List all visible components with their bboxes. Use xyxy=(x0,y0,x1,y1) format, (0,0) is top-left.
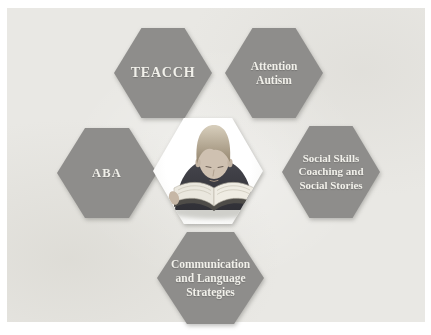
hexagon-communication-language-label-line1: Communication xyxy=(171,257,250,271)
hexagon-social-skills-label-line1: Social Skills xyxy=(303,152,360,166)
hexagon-social-skills: Social Skills Coaching and Social Storie… xyxy=(282,126,380,218)
hexagon-attention-autism: Attention Autism xyxy=(225,28,323,118)
hexagon-communication-language: Communication and Language Strategies xyxy=(157,232,264,324)
hexagon-attention-autism-shape: Attention Autism xyxy=(225,28,323,118)
hexagon-communication-language-shape: Communication and Language Strategies xyxy=(157,232,264,324)
diagram-panel: TEACCH Attention Autism ABA Social Skill… xyxy=(7,8,425,322)
hexagon-social-skills-label-line2: Coaching and xyxy=(298,165,363,179)
hexagon-center-photo xyxy=(153,118,263,224)
hexagon-communication-language-label-line3: Strategies xyxy=(186,285,235,299)
slide-page: TEACCH Attention Autism ABA Social Skill… xyxy=(0,0,431,335)
hexagon-aba-shape: ABA xyxy=(57,128,157,218)
hexagon-attention-autism-label-line1: Attention xyxy=(251,59,298,73)
hexagon-communication-language-label-line2: and Language xyxy=(176,271,246,285)
hexagon-social-skills-shape: Social Skills Coaching and Social Storie… xyxy=(282,126,380,218)
hexagon-aba-label: ABA xyxy=(92,166,122,181)
hexagon-social-skills-label-line3: Social Stories xyxy=(299,179,362,193)
hexagon-attention-autism-label-line2: Autism xyxy=(256,73,292,87)
hexagon-teacch-label: TEACCH xyxy=(131,65,196,81)
hexagon-teacch-shape: TEACCH xyxy=(114,28,212,118)
hexagon-aba: ABA xyxy=(57,128,157,218)
hexagon-center-shape xyxy=(153,118,263,224)
child-reading-photo xyxy=(153,118,263,224)
hexagon-teacch: TEACCH xyxy=(114,28,212,118)
